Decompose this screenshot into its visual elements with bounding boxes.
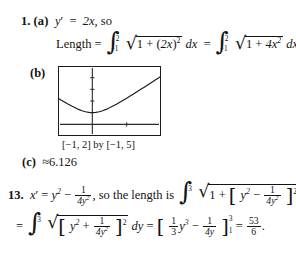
right-bracket: ]: [115, 220, 123, 234]
length-label: Length =: [56, 37, 102, 51]
integral-1-lower-limit: −1: [111, 45, 119, 53]
minus-sign: −: [192, 219, 199, 233]
fraction-numerator: 1: [169, 216, 178, 226]
radical-1: √ 1 + (2x)2: [126, 36, 183, 52]
differential-dx-1: dx: [186, 37, 198, 51]
equals-sign: =: [69, 14, 76, 28]
equals-sign-2: =: [204, 37, 211, 51]
antiderivative-contents: 1 3 y3 − 1 4y: [167, 216, 218, 237]
bracket-exponent: 2: [123, 218, 127, 227]
integral-2-lower-limit: −1: [220, 45, 228, 53]
equals-sign-lead: =: [16, 219, 23, 233]
fraction-denominator: 4y: [203, 226, 216, 237]
bracket-group-13b: [ y2 + 1 4y2 ]2: [58, 216, 126, 237]
part-label-a-text: (a): [34, 14, 49, 28]
part-label-a: (a): [34, 14, 49, 28]
bracket-group-13: [ y2 − 1 4y2 ]2: [229, 185, 296, 206]
part-c-value: ≈6.126: [42, 155, 77, 169]
radical-13b: √ [ y2 + 1 4y2 ]2: [47, 215, 128, 237]
fraction-1-over-4y2: 1 4y2: [75, 185, 91, 206]
integral-13-lower-limit: 1: [183, 196, 187, 204]
part-label-c: (c): [22, 155, 36, 169]
bracket-contents: y2 − 1 4y2: [240, 185, 283, 206]
differential-dx-2: dx: [286, 37, 296, 51]
integral-2: ∫ 2 −1: [216, 39, 230, 52]
two-x-term: 2x: [161, 37, 173, 51]
antiderivative-bracket: [ 1 3 y3 − 1 4y ]31: [157, 216, 233, 237]
fraction-denominator: 4y2: [264, 195, 280, 206]
problem-1a-line: 1. (a) y′ = 2x, so: [21, 14, 112, 29]
left-bracket: [: [157, 220, 165, 234]
graph-window-caption: [−1, 2] by [−1, 5]: [62, 139, 135, 150]
y-cubed: y3: [179, 219, 188, 233]
radical-symbol: √: [235, 36, 246, 52]
radical-symbol: √: [47, 215, 58, 231]
one-term: 1: [209, 188, 215, 202]
plus-sign: +: [255, 37, 262, 51]
differential-dy-2: dy: [132, 219, 144, 233]
integral-13b: ∫ 3 1: [28, 221, 42, 234]
eval-upper: 3: [229, 215, 233, 223]
calculator-graph: [58, 66, 161, 136]
problem-number-13: 13.: [8, 188, 24, 202]
problem-13-line-1: 13. x′ = y2 − 1 4y2 , so the length is ∫…: [8, 184, 296, 206]
four-x-squared: 4x2: [266, 37, 282, 51]
left-bracket: [: [58, 220, 66, 234]
equals-sign: =: [41, 188, 48, 202]
radicand-2: 1 + 4x2: [245, 36, 283, 52]
one-term: 1: [137, 37, 143, 51]
length-equation: Length = ∫ 2 −1 √ 1 + (2x)2 dx = ∫ 2 −1 …: [56, 36, 296, 52]
problem-number-1: 1.: [21, 14, 30, 28]
y-squared: y2: [51, 188, 60, 202]
fraction-denominator: 3: [169, 226, 178, 237]
fraction-numerator: 1: [264, 185, 280, 195]
bracket-contents: y2 + 1 4y2: [69, 216, 112, 237]
prime-symbol: ′: [35, 188, 38, 202]
radical-13: √ 1 + [ y2 − 1 4y2 ]2: [198, 184, 296, 206]
fraction-1-over-4y2: 1 4y2: [94, 216, 110, 237]
fraction-numerator: 1: [94, 216, 110, 226]
left-bracket: [: [229, 189, 237, 203]
integral-13b-upper-limit: 3: [37, 216, 41, 224]
minus-sign: −: [64, 188, 71, 202]
y-squared: y2: [70, 219, 79, 233]
result-fraction: 53 6: [247, 216, 261, 237]
equals-sign-2: =: [146, 219, 153, 233]
equals-sign-3: =: [236, 219, 243, 233]
integral-13-upper-limit: 3: [188, 185, 192, 193]
plus-sign: +: [83, 219, 90, 233]
result-denominator: 6: [247, 226, 261, 237]
radicand-13: 1 + [ y2 − 1 4y2 ]2: [208, 184, 296, 206]
fraction-denominator: 4y2: [75, 195, 91, 206]
problem-13-line-2: = ∫ 3 1 √ [ y2 + 1 4y2: [16, 215, 265, 237]
fraction-numerator: 1: [203, 216, 216, 226]
plus-sign: +: [219, 188, 226, 202]
integral-1: ∫ 2 −1: [107, 39, 121, 52]
connector-text: so the length is: [99, 188, 174, 202]
right-bracket: ]: [221, 220, 229, 234]
radicand-13b: [ y2 + 1 4y2 ]2: [57, 215, 128, 237]
exponent-two: 2: [177, 36, 181, 45]
radicand-1: 1 + (2x)2: [136, 36, 183, 52]
fraction-1-over-4y: 1 4y: [203, 216, 216, 237]
y-squared: y2: [241, 188, 250, 202]
fraction-1-over-3: 1 3: [169, 216, 178, 237]
integral-13: ∫ 3 1: [179, 190, 193, 203]
radical-2: √ 1 + 4x2: [235, 36, 283, 52]
evaluation-limits: 31: [229, 215, 233, 231]
fraction-1-over-4y2: 1 4y2: [264, 185, 280, 206]
integral-2-upper-limit: 2: [225, 35, 229, 43]
one-term: 1: [246, 37, 252, 51]
trailing-period: .: [262, 219, 265, 233]
prime-symbol: ′: [61, 14, 64, 28]
integral-13b-lower-limit: 1: [32, 227, 36, 235]
result-numerator: 53: [247, 216, 261, 226]
radical-symbol: √: [198, 184, 209, 200]
radical-symbol: √: [126, 36, 137, 52]
bracket-exponent: 2: [293, 187, 296, 196]
minus-sign: −: [253, 188, 260, 202]
expression-2x: 2x: [83, 14, 95, 28]
fraction-denominator: 4y2: [94, 226, 110, 237]
part-label-b: (b): [30, 66, 45, 81]
plus-sign: +: [146, 37, 153, 51]
